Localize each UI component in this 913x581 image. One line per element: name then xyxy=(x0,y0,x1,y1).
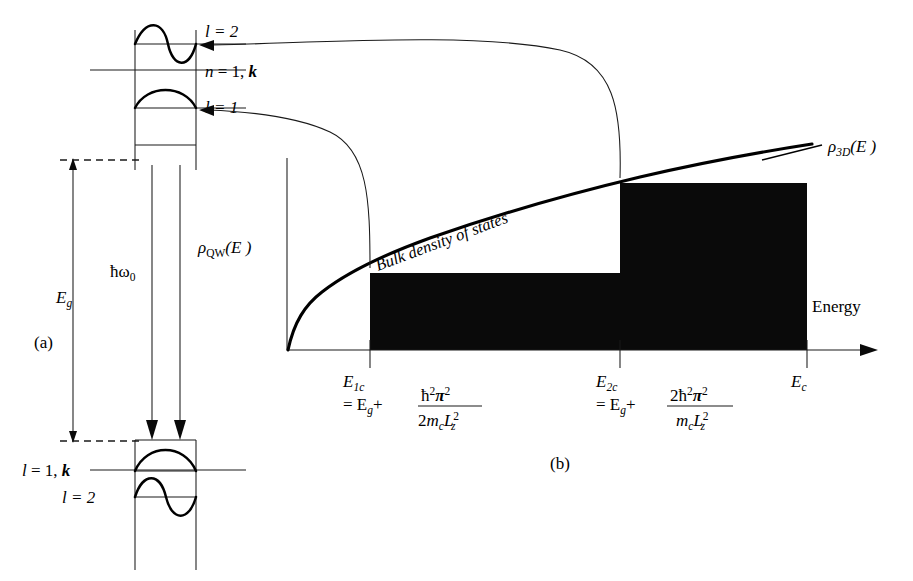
quantum-well-density-of-states-figure: l = 2 n = 1, k l = 1 l = 1, k l = 2 Eg xyxy=(0,0,913,581)
label-l1k-lower: l = 1, k xyxy=(22,461,71,480)
label-l2-lower: l = 2 xyxy=(62,488,96,507)
svg-text:= Eg+: = Eg+ xyxy=(596,395,636,417)
lower-well-levels xyxy=(90,440,246,497)
dos-staircase-fill xyxy=(370,183,807,350)
tick-label-ec: Ec xyxy=(790,372,807,393)
label-l2-upper: l = 2 xyxy=(205,22,239,41)
upper-well-walls xyxy=(135,30,196,170)
svg-text:mcL2z: mcL2z xyxy=(676,410,709,432)
svg-text:E1c: E1c xyxy=(342,372,364,393)
arrow-step2-to-l2 xyxy=(199,40,620,178)
y-axis-label: ρQW(E ) xyxy=(197,238,252,259)
wavefunction-l1-upper xyxy=(135,90,196,108)
x-axis-arrowhead xyxy=(860,344,878,356)
panel-b-label: (b) xyxy=(550,454,570,473)
svg-text:2ħ2π2: 2ħ2π2 xyxy=(670,385,708,405)
svg-text:E2c: E2c xyxy=(595,372,617,393)
svg-text:= Eg+: = Eg+ xyxy=(343,395,383,417)
svg-text:2mcL2z: 2mcL2z xyxy=(418,410,459,432)
label-bandgap: Eg xyxy=(55,288,72,310)
svg-text:ħ2π2: ħ2π2 xyxy=(421,385,451,405)
x-axis-label: Energy xyxy=(812,297,861,316)
panel-a-label: (a) xyxy=(34,333,53,352)
bulk-dos-label: Bulk density of states xyxy=(373,208,511,275)
tick-label-e1c: E1c = Eg+ ħ2π2 2mcL2z xyxy=(342,372,482,432)
rho-3d-label: ρ3D(E ) xyxy=(827,137,877,158)
label-n1k: n = 1, k xyxy=(205,62,258,81)
photon-transition-arrows xyxy=(146,165,186,440)
wavefunction-l1-lower xyxy=(135,450,196,471)
label-photon-energy: ħω0 xyxy=(110,262,136,283)
tick-label-e2c: E2c = Eg+ 2ħ2π2 mcL2z xyxy=(595,372,733,432)
upper-well-levels xyxy=(90,44,246,145)
